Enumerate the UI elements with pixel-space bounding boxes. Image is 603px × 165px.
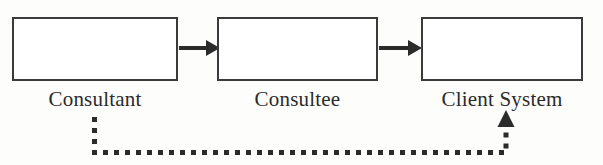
arrow-head-up — [498, 110, 515, 127]
arrow-consultee-to-client-system — [379, 40, 422, 56]
node-label-consultant: Consultant — [12, 86, 178, 112]
dotted-arrow-consultant-to-client-system — [95, 110, 515, 153]
node-box-client-system — [421, 17, 583, 81]
node-box-consultee — [217, 17, 378, 81]
arrow-head — [408, 40, 422, 56]
node-label-client-system: Client System — [421, 86, 583, 112]
node-label-consultee: Consultee — [217, 86, 378, 112]
consultation-flow-diagram: Consultant Consultee Client System — [0, 0, 603, 165]
node-box-consultant — [12, 17, 178, 81]
dotted-path — [95, 117, 507, 153]
arrow-consultant-to-consultee — [179, 40, 220, 56]
